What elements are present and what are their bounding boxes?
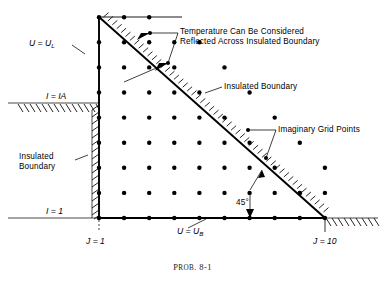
grid-point [97, 15, 101, 19]
label-insulated-boundary-diagonal: Insulated Boundary [224, 82, 297, 92]
imaginary-grid-point [222, 65, 226, 69]
grid-point [247, 191, 251, 195]
label-angle-45: 45° [236, 198, 249, 208]
grid-point [172, 216, 176, 220]
label-u-bottom: U = UB [177, 226, 203, 237]
grid-point [273, 216, 277, 220]
label-j-1: J = 1 [86, 236, 105, 246]
grid-point [122, 65, 126, 69]
grid-point [172, 191, 176, 195]
label-i-ia: I = IA [46, 91, 66, 101]
grid-point [197, 166, 201, 170]
grid-point [172, 166, 176, 170]
grid-point [273, 191, 277, 195]
grid-point [197, 115, 201, 119]
grid-point [197, 141, 201, 145]
imaginary-grid-point [147, 15, 151, 19]
grid-point [97, 40, 101, 44]
imaginary-grid-point [273, 115, 277, 119]
grid-point [122, 191, 126, 195]
grid-point [222, 141, 226, 145]
grid-point [97, 141, 101, 145]
grid-point [147, 216, 151, 220]
grid-point [147, 65, 151, 69]
hatching-left-insulated [92, 105, 99, 219]
grid-point [97, 65, 101, 69]
label-insulated-boundary-left: Insulated Boundary [19, 152, 55, 171]
grid-point [122, 15, 126, 19]
grid-point [247, 141, 251, 145]
grid-point [172, 90, 176, 94]
grid-point [222, 166, 226, 170]
grid-point [147, 141, 151, 145]
imaginary-grid-point [323, 191, 327, 195]
grid-point [197, 191, 201, 195]
grid-point [97, 115, 101, 119]
grid-point [122, 40, 126, 44]
boundary-lines [99, 17, 325, 218]
hatching-i-ia [18, 104, 99, 112]
imaginary-grid-point [298, 191, 302, 195]
grid-point [222, 191, 226, 195]
grid-point [172, 65, 176, 69]
grid-point [147, 40, 151, 44]
grid-point [247, 166, 251, 170]
grid-point [122, 166, 126, 170]
grid-point [122, 90, 126, 94]
grid-point [172, 141, 176, 145]
figure-caption: PROB. 8-1 [0, 262, 385, 272]
grid-point [97, 90, 101, 94]
grid-point [222, 216, 226, 220]
grid-point [147, 166, 151, 170]
grid-point [122, 141, 126, 145]
grid-point [222, 115, 226, 119]
grid-point [323, 216, 327, 220]
grid-point [147, 115, 151, 119]
label-u-left: U = UL [29, 38, 55, 49]
grid-point [97, 216, 101, 220]
grid-point [147, 90, 151, 94]
grid-point [298, 216, 302, 220]
label-imaginary-grid-points: Imaginary Grid Points [278, 125, 360, 135]
grid-point [97, 166, 101, 170]
grid-point [172, 115, 176, 119]
grid-point [197, 90, 201, 94]
grid-point [97, 191, 101, 195]
grid-point [197, 216, 201, 220]
hatching-base-right [326, 218, 379, 226]
grid-point [273, 166, 277, 170]
grid-point [147, 191, 151, 195]
grid-point [122, 216, 126, 220]
label-i-1: I = 1 [46, 206, 63, 216]
label-reflected-note: Temperature Can Be Considered Reflected … [180, 27, 320, 46]
grid-point [122, 115, 126, 119]
boundary-diagonal-45 [99, 17, 325, 218]
figure-prob-8-1: U = UL I = IA I = 1 J = 1 J = 10 U = UB … [0, 0, 385, 287]
label-j-10: J = 10 [313, 236, 337, 246]
imaginary-grid-point [323, 166, 327, 170]
imaginary-grid-point [298, 141, 302, 145]
